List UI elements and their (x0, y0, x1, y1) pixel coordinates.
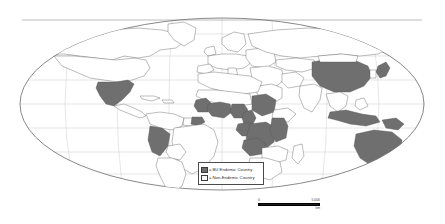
map-scale-bar: 0 5,000 km (258, 198, 320, 210)
country-new-zealand (409, 156, 420, 170)
country-central-america (114, 104, 146, 118)
country-madagascar (292, 144, 304, 164)
legend-equals-sign-non-endemic: = (209, 175, 211, 181)
legend-label-non-endemic: Non-Endemic Country (212, 175, 254, 181)
country-china (312, 58, 372, 92)
country-india (299, 84, 322, 112)
legend-item-endemic: = BU Endemic Country (201, 166, 260, 173)
scale-min-label: 0 (258, 198, 260, 202)
country-philippines (355, 98, 368, 110)
endemic-swatch (201, 167, 208, 173)
scale-max-label: 5,000 (312, 198, 321, 202)
non-endemic-swatch (201, 175, 208, 181)
country-usa (54, 56, 150, 82)
world-map-graphic (0, 0, 445, 224)
country-coteivoire-ghana-togo-benin (207, 102, 232, 118)
legend-item-non-endemic: = Non-Endemic Country (201, 174, 260, 181)
map-legend: = BU Endemic Country = Non-Endemic Count… (198, 162, 264, 185)
country-papua-new-guinea (382, 118, 404, 130)
country-mexico (96, 80, 134, 106)
country-hispaniola (162, 100, 174, 103)
country-chile-argentina (156, 158, 186, 192)
country-iran (282, 72, 304, 88)
country-japan (376, 62, 390, 78)
world-map-figure: = BU Endemic Country = Non-Endemic Count… (0, 0, 445, 224)
country-western-europe (208, 54, 252, 70)
country-uk-ireland (204, 46, 216, 56)
scale-units-label: km (258, 206, 320, 210)
country-scandinavia (222, 32, 246, 52)
country-cuba (140, 96, 160, 101)
country-southeast-asia (326, 92, 348, 112)
country-korea (370, 70, 376, 78)
country-alaska (30, 38, 58, 54)
legend-equals-sign-endemic: = (209, 167, 211, 173)
country-malaysia-indonesia (328, 110, 380, 126)
country-australia (354, 130, 402, 166)
legend-label-endemic: BU Endemic Country (212, 167, 252, 173)
scale-tick-labels: 0 5,000 (258, 198, 320, 202)
